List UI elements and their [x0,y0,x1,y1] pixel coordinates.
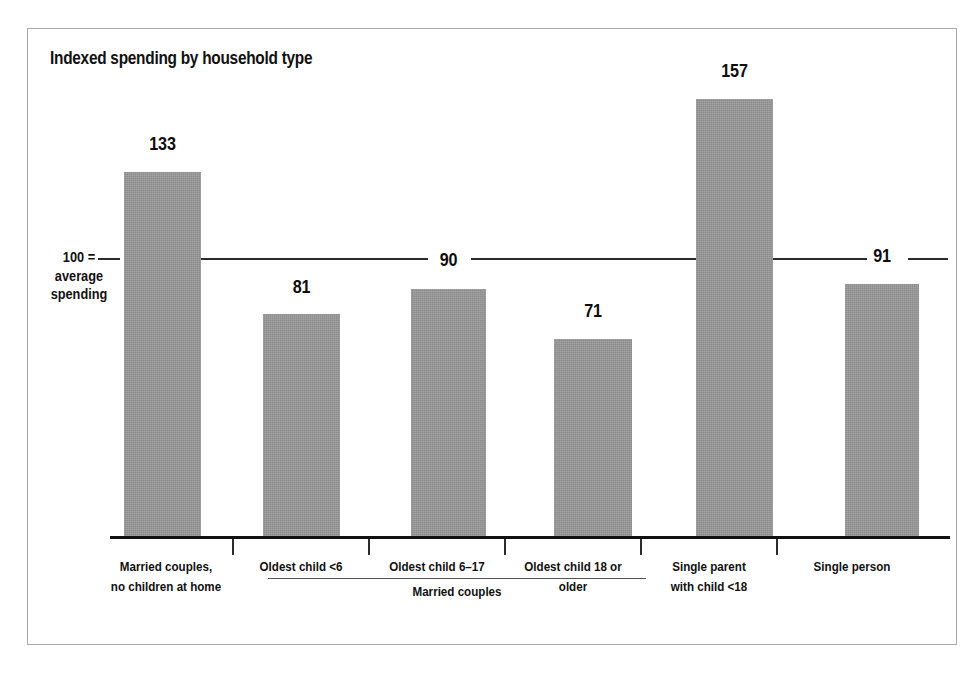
reference-line-segment [908,258,948,260]
category-label-oldest-child-6-17: Oldest child 6–17 [379,557,494,577]
y-axis-caption-line-1: 100 = [41,248,117,267]
bar-oldest-child-under-6 [263,314,340,536]
axis-tick [504,539,506,555]
category-label-line-2: no children at home [108,577,225,597]
bar-value-label: 81 [269,276,334,298]
bar-single-parent-child-under-18 [696,99,773,536]
bar-value-label: 133 [130,133,195,155]
axis-tick [232,539,234,555]
bar-oldest-child-18-or-older [554,339,632,536]
bar-value-label: 91 [851,245,914,267]
category-label-line-1: Single person [788,557,915,577]
bar-value-label: 90 [417,249,481,271]
axis-tick [640,539,642,555]
bar-value-label: 71 [560,300,626,322]
category-label-single-person: Single person [788,557,915,577]
x-axis-baseline [110,536,950,539]
category-label-line-1: Oldest child 18 or [515,557,630,577]
reference-line-segment [200,258,428,260]
plot-area: 133 81 90 71 157 91 100 = average spendi… [0,0,977,676]
reference-line-segment [471,258,867,260]
group-bracket-label: Married couples [294,584,619,599]
y-axis-caption-line-3: spending [41,285,117,304]
y-axis-caption-line-2: average [41,267,117,286]
bar-oldest-child-6-17 [411,289,486,536]
category-label-married-no-children: Married couples, no children at home [108,557,225,597]
category-label-line-1: Oldest child 6–17 [379,557,494,577]
category-label-line-1: Oldest child <6 [243,557,358,577]
y-axis-caption: 100 = average spending [41,248,117,304]
axis-tick [368,539,370,555]
category-label-oldest-child-under-6: Oldest child <6 [243,557,358,577]
bar-single-person [845,284,919,536]
axis-tick [776,539,778,555]
bar-value-label: 157 [702,60,767,82]
category-label-line-2: with child <18 [651,577,766,597]
group-bracket-line [268,578,646,579]
category-label-line-1: Married couples, [108,557,225,577]
bar-married-no-children [124,172,201,536]
category-label-single-parent: Single parent with child <18 [651,557,766,597]
chart-figure: Indexed spending by household type 133 8… [0,0,977,676]
category-label-line-1: Single parent [651,557,766,577]
